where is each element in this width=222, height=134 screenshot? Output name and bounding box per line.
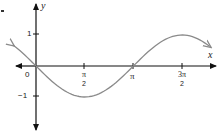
three-pi-half-denominator: 2 <box>175 80 189 87</box>
three-pi-half-numerator: 3π <box>175 71 189 79</box>
origin-label: 0 <box>25 71 29 79</box>
x-tick-label-pi-half: π 2 <box>77 71 91 87</box>
y-tick-label-1: 1 <box>27 30 31 38</box>
x-tick-label-three-pi-half: 3π 2 <box>175 71 189 87</box>
pi-half-numerator: π <box>77 71 91 79</box>
x-axis-label: x <box>208 50 212 60</box>
x-tick-label-pi: π <box>130 72 135 81</box>
y-tick-label-neg1: −1 <box>18 92 27 100</box>
pi-half-denominator: 2 <box>77 80 91 87</box>
sine-graph <box>0 0 222 134</box>
y-axis-label: y <box>41 1 45 11</box>
